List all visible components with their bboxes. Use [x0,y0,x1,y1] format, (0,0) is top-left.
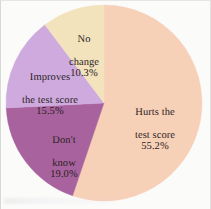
pie-value-hurts: 55.2% [120,141,190,153]
pie-value-dont-know: 19.0% [36,169,92,181]
pie-label-hurts-line2: test score [135,130,175,141]
pie-label-improves-line2: the test score [22,95,78,106]
pie-value-improves: 15.5% [6,106,94,118]
pie-label-hurts-the-test-score: Hurts the test score 55.2% [120,95,190,165]
pie-label-hurts-line1: Hurts the [135,107,175,118]
pie-label-dontknow-line2: know [52,158,76,169]
pie-label-nochange-line1: No [78,34,91,45]
pie-label-nochange-line2: change [69,57,99,68]
pie-label-dont-know: Don't know 19.0% [36,123,92,193]
pie-value-no-change: 10.3% [58,68,110,80]
pie-label-no-change: No change 10.3% [58,22,110,92]
pie-chart-figure: Hurts the test score 55.2% Don't know 19… [0,0,211,209]
pie-label-dontknow-line1: Don't [52,135,75,146]
